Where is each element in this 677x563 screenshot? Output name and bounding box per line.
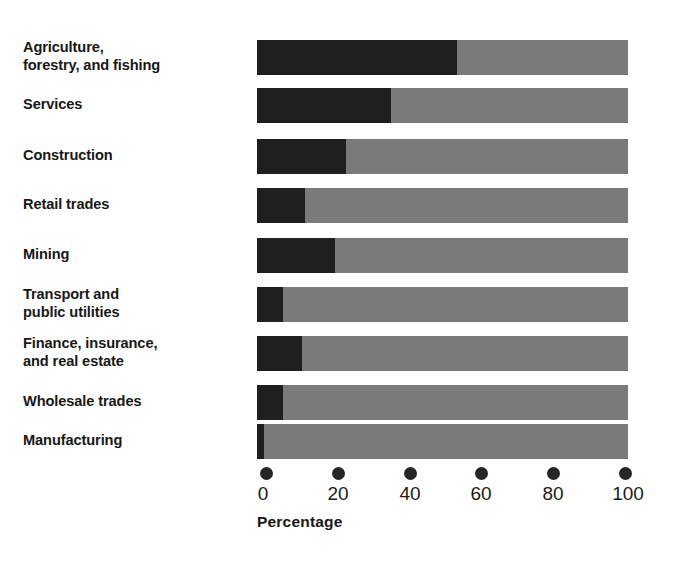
axis-tick-dot bbox=[475, 467, 488, 480]
bar-track bbox=[257, 139, 628, 174]
axis-tick-dot bbox=[332, 467, 345, 480]
bar-row: Retail trades bbox=[0, 188, 677, 223]
bar-track bbox=[257, 188, 628, 223]
bar-track bbox=[257, 88, 628, 123]
axis-tick-label: 0 bbox=[228, 483, 298, 505]
bar-row: Transport and public utilities bbox=[0, 287, 677, 322]
bar-segment-dark bbox=[257, 336, 302, 371]
axis-tick-label: 60 bbox=[446, 483, 516, 505]
axis-tick-dot bbox=[260, 467, 273, 480]
category-label: Mining bbox=[23, 246, 238, 264]
axis-tick-label: 40 bbox=[375, 483, 445, 505]
bar-segment-dark bbox=[257, 40, 457, 75]
bar-row: Services bbox=[0, 88, 677, 123]
category-label: Agriculture, forestry, and fishing bbox=[23, 39, 238, 74]
category-label: Manufacturing bbox=[23, 432, 238, 450]
bar-row: Wholesale trades bbox=[0, 385, 677, 420]
bar-segment-dark bbox=[257, 238, 335, 273]
bar-row: Construction bbox=[0, 139, 677, 174]
category-label: Services bbox=[23, 96, 238, 114]
axis-tick-dot bbox=[619, 467, 632, 480]
bar-row: Finance, insurance, and real estate bbox=[0, 336, 677, 371]
bar-row: Manufacturing bbox=[0, 424, 677, 459]
bar-segment-dark bbox=[257, 385, 283, 420]
category-label: Transport and public utilities bbox=[23, 286, 238, 321]
category-label: Finance, insurance, and real estate bbox=[23, 335, 238, 370]
category-label: Retail trades bbox=[23, 196, 238, 214]
bar-track bbox=[257, 424, 628, 459]
bar-row: Mining bbox=[0, 238, 677, 273]
bar-track bbox=[257, 287, 628, 322]
axis-tick-dot bbox=[404, 467, 417, 480]
bar-track bbox=[257, 238, 628, 273]
bar-segment-dark bbox=[257, 188, 305, 223]
axis-tick-label: 100 bbox=[593, 483, 663, 505]
bar-track bbox=[257, 385, 628, 420]
axis-tick-label: 80 bbox=[518, 483, 588, 505]
bar-segment-dark bbox=[257, 287, 283, 322]
bar-segment-dark bbox=[257, 139, 346, 174]
horizontal-stacked-bar-chart: Agriculture, forestry, and fishing Servi… bbox=[0, 0, 677, 563]
x-axis: 0 20 40 60 80 100 Percentage bbox=[0, 462, 677, 563]
bar-row: Agriculture, forestry, and fishing bbox=[0, 40, 677, 75]
category-label: Construction bbox=[23, 147, 238, 165]
category-label: Wholesale trades bbox=[23, 393, 238, 411]
bar-segment-dark bbox=[257, 88, 391, 123]
bar-segment-dark bbox=[257, 424, 264, 459]
axis-tick-dot bbox=[547, 467, 560, 480]
bar-track bbox=[257, 336, 628, 371]
bar-track bbox=[257, 40, 628, 75]
axis-tick-label: 20 bbox=[303, 483, 373, 505]
x-axis-title: Percentage bbox=[257, 513, 497, 531]
